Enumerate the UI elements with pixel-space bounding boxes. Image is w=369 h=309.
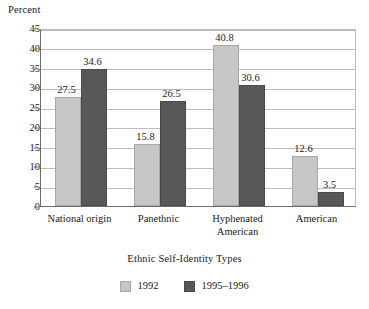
x-axis-category-label: American	[265, 212, 368, 225]
bar-chart-figure: Percent 051015202530354045 Ethnic Self-I…	[0, 0, 369, 309]
legend-item: 1992	[120, 281, 158, 292]
y-axis-tick-mark	[34, 167, 38, 168]
y-axis: 051015202530354045	[0, 29, 40, 207]
gridline	[41, 30, 355, 31]
bar-value-label: 3.5	[311, 180, 349, 191]
y-axis-tick-mark	[34, 187, 38, 188]
bar	[318, 192, 344, 206]
bar-value-label: 26.5	[153, 89, 191, 100]
legend-swatch-1992	[120, 281, 131, 292]
x-axis-title: Ethnic Self-Identity Types	[0, 253, 369, 264]
y-axis-tick-mark	[34, 207, 38, 208]
bar-value-label: 30.6	[232, 73, 270, 84]
legend-item-label: 1995–1996	[201, 281, 248, 292]
bar-value-label: 27.5	[48, 85, 86, 96]
chart-legend: 19921995–1996	[0, 281, 369, 292]
gridline	[41, 49, 355, 50]
y-axis-tick-mark	[34, 127, 38, 128]
bar-value-label: 15.8	[127, 132, 165, 143]
y-axis-tick-mark	[34, 88, 38, 89]
y-axis-tick-mark	[34, 147, 38, 148]
legend-item-label: 1992	[137, 281, 158, 292]
legend-swatch-1995-1996	[184, 281, 195, 292]
bar	[239, 85, 265, 206]
y-axis-tick-mark	[34, 29, 38, 30]
bar-value-label: 40.8	[206, 33, 244, 44]
y-axis-tick-mark	[34, 68, 38, 69]
bar	[213, 45, 239, 206]
y-axis-tick-mark	[34, 108, 38, 109]
legend-item: 1995–1996	[184, 281, 248, 292]
bar	[55, 97, 81, 206]
bar-value-label: 34.6	[74, 57, 112, 68]
y-axis-caption: Percent	[8, 4, 41, 15]
bar	[160, 101, 186, 206]
bar-value-label: 12.6	[285, 144, 323, 155]
bar	[134, 144, 160, 206]
y-axis-tick-mark	[34, 48, 38, 49]
